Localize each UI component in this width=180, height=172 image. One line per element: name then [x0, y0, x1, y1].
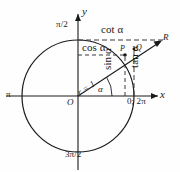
angle-marker-three-pi-over-2: 3π/2	[65, 150, 81, 159]
point-q-label: Q	[136, 44, 142, 52]
point-r-label: R	[163, 33, 169, 42]
sine-label: sin α	[102, 30, 114, 70]
angle-arc	[107, 77, 113, 96]
y-axis-label: y	[82, 6, 87, 17]
point-p-marker	[123, 53, 127, 57]
unit-circle-figure: y x π/2 π 0; 2π 3π/2 O cot α cos α sin α…	[0, 0, 180, 172]
angle-marker-pi: π	[6, 90, 11, 99]
angle-marker-pi-over-2: π/2	[56, 20, 68, 29]
angle-alpha-label: α	[98, 85, 103, 94]
point-p-label: P	[120, 45, 125, 53]
x-axis-label: x	[160, 89, 165, 100]
angle-marker-zero-two-pi: 0; 2π	[127, 97, 146, 106]
origin-label: O	[67, 98, 74, 107]
